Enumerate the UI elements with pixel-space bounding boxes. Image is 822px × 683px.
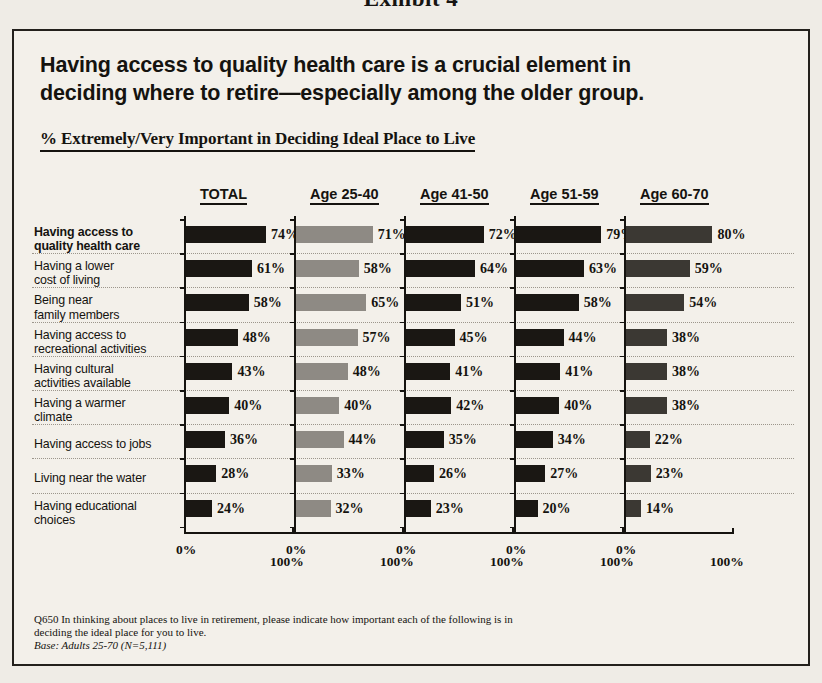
row-label-line: Having access to jobs bbox=[34, 437, 174, 451]
bar-value-label: 41% bbox=[565, 363, 593, 380]
bar bbox=[516, 363, 560, 380]
row-label-line: Having a lower bbox=[34, 259, 174, 273]
axis-tick bbox=[290, 458, 295, 460]
bar-value-label: 36% bbox=[230, 431, 258, 448]
bar bbox=[516, 465, 545, 482]
headline: Having access to quality health care is … bbox=[40, 51, 780, 107]
row-label-line: Having access to bbox=[34, 328, 174, 342]
axis-tick bbox=[620, 424, 625, 426]
axis-tick bbox=[290, 356, 295, 358]
axis-tick bbox=[400, 322, 405, 324]
bar-value-label: 35% bbox=[449, 431, 477, 448]
bar bbox=[406, 431, 444, 448]
axis-label-min: 0% bbox=[616, 542, 636, 558]
row-label-line: Having cultural bbox=[34, 362, 174, 376]
row-label: Living near the water bbox=[34, 471, 174, 485]
bar bbox=[626, 260, 690, 277]
axis-cap-left bbox=[514, 528, 516, 534]
row-label: Being nearfamily members bbox=[34, 293, 174, 321]
bar bbox=[406, 397, 451, 414]
axis-tick bbox=[400, 253, 405, 255]
bar-value-label: 44% bbox=[349, 431, 377, 448]
axis-tick bbox=[290, 424, 295, 426]
axis-label-min: 0% bbox=[176, 542, 196, 558]
bar-value-label: 40% bbox=[234, 397, 262, 414]
axis-tick bbox=[180, 356, 185, 358]
axis-tick bbox=[180, 390, 185, 392]
bar bbox=[626, 226, 712, 243]
axis-tick bbox=[400, 527, 405, 529]
bar bbox=[296, 294, 366, 311]
bar bbox=[296, 226, 373, 243]
axis-cap-right bbox=[732, 528, 734, 534]
axis-tick bbox=[180, 253, 185, 255]
bar-value-label: 22% bbox=[655, 431, 683, 448]
plot-area: Having access toquality health careHavin… bbox=[32, 216, 794, 546]
axis-tick bbox=[290, 287, 295, 289]
bar-value-label: 61% bbox=[257, 260, 285, 277]
axis-tick bbox=[510, 390, 515, 392]
footnote-question-line-1: Q650 In thinking about places to live in… bbox=[34, 613, 513, 625]
column-header-age-25-40: Age 25-40 bbox=[310, 186, 379, 205]
row-label: Having a warmerclimate bbox=[34, 396, 174, 424]
axis-tick bbox=[400, 390, 405, 392]
axis-tick bbox=[400, 458, 405, 460]
axis-tick bbox=[510, 287, 515, 289]
bar-value-label: 80% bbox=[717, 226, 745, 243]
axis-tick bbox=[510, 219, 515, 221]
footnote-question: Q650 In thinking about places to live in… bbox=[34, 613, 734, 638]
axis-tick bbox=[180, 424, 185, 426]
axis-tick bbox=[620, 356, 625, 358]
footnote: Q650 In thinking about places to live in… bbox=[34, 613, 734, 652]
axis-label-max: 100% bbox=[710, 554, 744, 570]
column-header-total: TOTAL bbox=[200, 186, 247, 205]
bar bbox=[186, 260, 252, 277]
bar bbox=[186, 363, 232, 380]
axis-tick bbox=[290, 390, 295, 392]
row-label: Having access torecreational activities bbox=[34, 328, 174, 356]
axis-tick bbox=[180, 322, 185, 324]
bar-value-label: 65% bbox=[371, 294, 399, 311]
subtitle: % Extremely/Very Important in Deciding I… bbox=[40, 129, 475, 152]
axis-tick bbox=[510, 322, 515, 324]
bar-value-label: 20% bbox=[543, 500, 571, 517]
bar-value-label: 43% bbox=[237, 363, 265, 380]
axis-tick bbox=[180, 458, 185, 460]
row-label-line: Being near bbox=[34, 293, 174, 307]
bar bbox=[516, 397, 559, 414]
axis-tick bbox=[290, 219, 295, 221]
bar bbox=[186, 294, 249, 311]
axis-tick bbox=[180, 287, 185, 289]
bar bbox=[186, 465, 216, 482]
row-label-line: quality health care bbox=[34, 239, 174, 253]
axis-tick bbox=[510, 356, 515, 358]
bar bbox=[296, 397, 339, 414]
chart: TOTALAge 25-40Age 41-50Age 51-59Age 60-7… bbox=[32, 186, 794, 606]
axis-cap-left bbox=[184, 528, 186, 534]
bar bbox=[626, 500, 641, 517]
bar bbox=[296, 500, 331, 517]
column-headers: TOTALAge 25-40Age 41-50Age 51-59Age 60-7… bbox=[32, 186, 794, 212]
bar-value-label: 23% bbox=[436, 500, 464, 517]
axis-tick bbox=[620, 390, 625, 392]
headline-line-2: deciding where to retire—especially amon… bbox=[40, 79, 780, 107]
bar-value-label: 38% bbox=[672, 329, 700, 346]
axis-tick bbox=[400, 356, 405, 358]
axis-cap-left bbox=[624, 528, 626, 534]
bar bbox=[626, 294, 684, 311]
bar-value-label: 64% bbox=[480, 260, 508, 277]
bar bbox=[186, 226, 266, 243]
bar bbox=[406, 294, 461, 311]
axis-tick bbox=[180, 493, 185, 495]
bar bbox=[516, 431, 553, 448]
bar-value-label: 42% bbox=[456, 397, 484, 414]
footnote-question-line-2: deciding the ideal place for you to live… bbox=[34, 626, 206, 638]
row-label-line: climate bbox=[34, 410, 174, 424]
bar-value-label: 51% bbox=[466, 294, 494, 311]
footnote-base: Base: Adults 25-70 (N=5,111) bbox=[34, 639, 734, 652]
bar-value-label: 58% bbox=[584, 294, 612, 311]
axis-tick bbox=[510, 493, 515, 495]
bar-value-label: 71% bbox=[378, 226, 406, 243]
column-header-age-60-70: Age 60-70 bbox=[640, 186, 709, 205]
bar bbox=[626, 363, 667, 380]
